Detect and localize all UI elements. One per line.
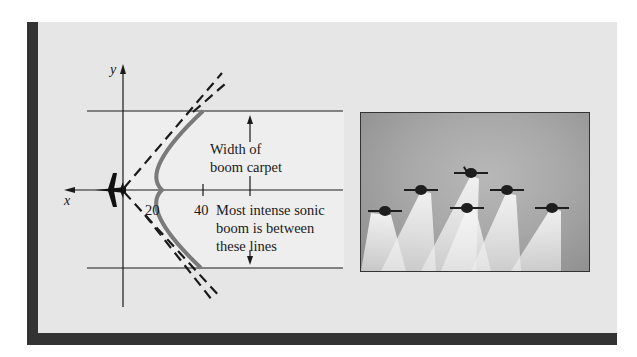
airplane-icon (95, 173, 126, 207)
intense-boom-label-1: Most intense sonic (216, 201, 325, 219)
tick-label-20: 20 (145, 201, 160, 219)
y-axis-arrow-icon (120, 64, 126, 74)
arrow-up-icon (247, 115, 253, 124)
boom-carpet-label: boom carpet (210, 158, 282, 176)
dashed-line-lower-outer (145, 215, 212, 300)
width-of-label: Width of (210, 140, 261, 158)
intense-boom-label-3: these lines (216, 237, 277, 255)
dashed-line-upper-inner (124, 73, 222, 188)
x-axis-label: x (64, 193, 70, 209)
y-axis-label: y (110, 62, 116, 78)
arrow-down-icon (247, 256, 253, 265)
intense-boom-label-2: boom is between (216, 219, 314, 237)
tick-label-40: 40 (194, 201, 209, 219)
jets-formation-photo (360, 112, 590, 272)
jets-photo-image (361, 113, 589, 271)
